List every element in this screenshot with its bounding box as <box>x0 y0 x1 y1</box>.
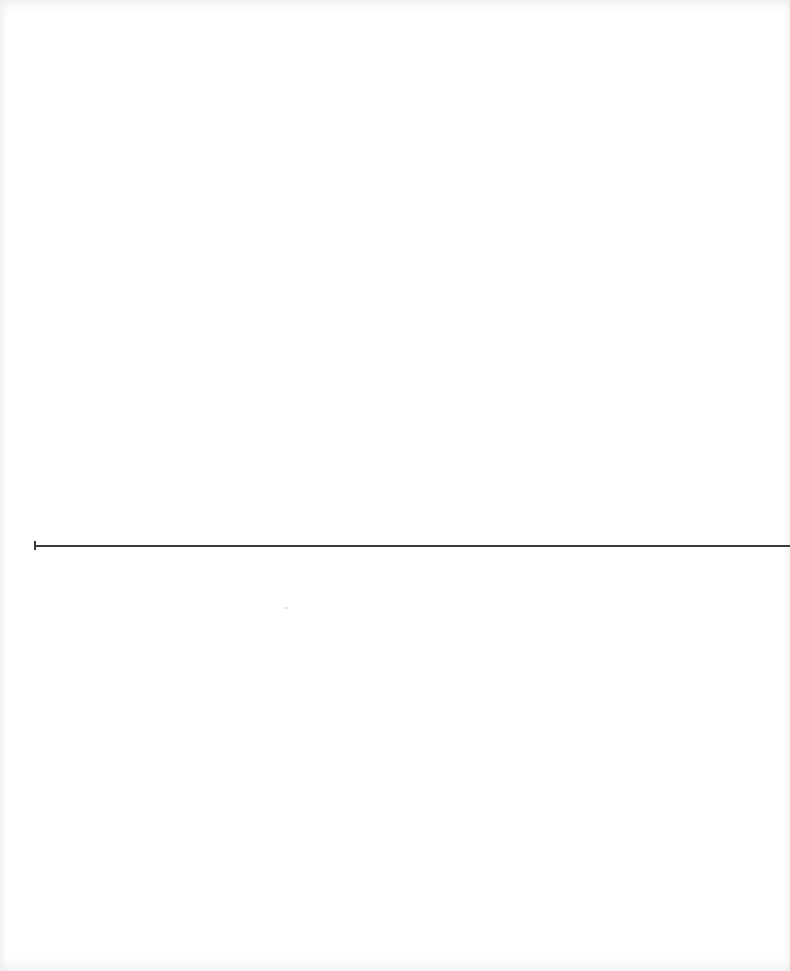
scan-speck <box>284 607 288 609</box>
document-page <box>0 0 790 971</box>
horizontal-rule <box>35 545 790 547</box>
